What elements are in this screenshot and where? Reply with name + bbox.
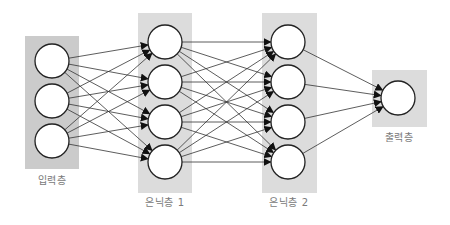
connections bbox=[65, 42, 384, 162]
input-layer-label: 입력층 bbox=[38, 172, 67, 187]
input-neuron-1 bbox=[35, 44, 69, 78]
input-neuron-2 bbox=[35, 84, 69, 118]
hidden2-neuron-3 bbox=[271, 105, 305, 139]
input-neuron-3 bbox=[35, 124, 69, 158]
output-layer-label: 출력층 bbox=[385, 129, 414, 144]
hidden2-neuron-4 bbox=[271, 145, 305, 179]
hidden-layer-2-label: 은닉층 2 bbox=[269, 194, 308, 209]
connection-arrow bbox=[69, 45, 148, 58]
hidden2-neuron-2 bbox=[271, 65, 305, 99]
hidden1-neuron-4 bbox=[148, 145, 182, 179]
hidden1-neuron-2 bbox=[148, 65, 182, 99]
hidden1-neuron-3 bbox=[148, 105, 182, 139]
neural-network-diagram: 입력층 은닉층 1 은닉층 2 출력층 bbox=[0, 0, 450, 225]
neurons bbox=[35, 25, 415, 179]
hidden-layer-1-label: 은닉층 1 bbox=[145, 194, 184, 209]
hidden1-neuron-1 bbox=[148, 25, 182, 59]
output-neuron-1 bbox=[381, 81, 415, 115]
hidden2-neuron-1 bbox=[271, 25, 305, 59]
network-graphic bbox=[0, 0, 450, 225]
